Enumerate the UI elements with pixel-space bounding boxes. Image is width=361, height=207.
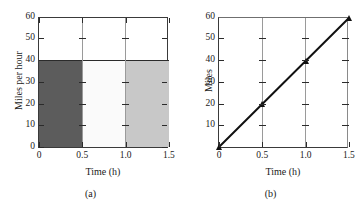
- figure-two-panel-chart: Miles per hour 0 10 20: [0, 0, 361, 207]
- ytick-40: [39, 60, 44, 61]
- panel-b: Miles 10 20: [180, 0, 361, 207]
- xtick-0.5-top: [82, 18, 83, 23]
- midtick-1.0-50: [122, 38, 129, 39]
- xtick-label-1.5: 1.5: [163, 151, 175, 161]
- midtick-1.0-10: [122, 125, 129, 126]
- ytick-50-right: [162, 38, 167, 39]
- panel-b-x-axis-title: Time (h): [218, 166, 348, 177]
- ytick-label-10: 10: [26, 120, 36, 130]
- ytick-label-40: 40: [206, 55, 216, 65]
- ytick-20-right: [162, 104, 167, 105]
- ytick-50: [39, 38, 44, 39]
- midtick-0.5-50: [259, 38, 266, 39]
- panel-b-plot-area: 10 20 30 40 50 60: [218, 17, 348, 148]
- midtick-1.0-20: [302, 104, 309, 105]
- ytick-label-60: 60: [206, 12, 216, 22]
- ytick-30: [219, 82, 224, 83]
- xtick-label-1.5: 1.5: [343, 151, 355, 161]
- ytick-label-30: 30: [26, 77, 36, 87]
- panel-b-caption: (b): [180, 188, 361, 199]
- ytick-40: [219, 60, 224, 61]
- xtick-0: [39, 142, 40, 147]
- midtick-right-20: [342, 104, 349, 105]
- ytick-0-right: [162, 147, 167, 148]
- midtick-0.5-40: [259, 60, 266, 61]
- panel-a: Miles per hour 0 10 20: [0, 0, 181, 207]
- ytick-10: [219, 125, 224, 126]
- midtick-0.5-20: [79, 104, 86, 105]
- ytick-label-0: 0: [30, 142, 35, 152]
- ytick-label-40: 40: [26, 55, 36, 65]
- ytick-label-50: 50: [26, 34, 36, 44]
- midtick-1.0-40: [302, 60, 309, 61]
- ytick-30-right: [162, 82, 167, 83]
- bar-segment-1: [39, 60, 82, 147]
- xtick-1.0-top: [126, 18, 127, 23]
- ytick-label-30: 30: [206, 77, 216, 87]
- midtick-1.0-30: [122, 82, 129, 83]
- ytick-40-right: [162, 60, 167, 61]
- midtick-right-30: [342, 82, 349, 83]
- ytick-label-60: 60: [26, 12, 36, 22]
- midtick-0.5-50: [79, 38, 86, 39]
- midtick-1.0-30: [302, 82, 309, 83]
- xtick-0.5: [262, 142, 263, 147]
- distance-line: [219, 18, 349, 147]
- xtick-label-1.0: 1.0: [300, 151, 312, 161]
- panel-a-y-axis-title: Miles per hour: [13, 21, 24, 141]
- xtick-0-top: [39, 18, 40, 23]
- midtick-1.0-20: [122, 104, 129, 105]
- xtick-label-1.0: 1.0: [120, 151, 132, 161]
- midtick-0.5-30: [79, 82, 86, 83]
- xtick-0: [219, 142, 220, 147]
- xtick-label-0: 0: [217, 151, 222, 161]
- midtick-right-40: [342, 60, 349, 61]
- xtick-1.0: [126, 142, 127, 147]
- midtick-right-10: [342, 125, 349, 126]
- midtick-0.5-10: [259, 125, 266, 126]
- ytick-10-right: [162, 125, 167, 126]
- ytick-label-20: 20: [26, 99, 36, 109]
- xtick-1.5: [349, 142, 350, 147]
- midtick-0.5-30: [259, 82, 266, 83]
- xtick-label-0: 0: [37, 151, 42, 161]
- xtick-0.5: [82, 142, 83, 147]
- ytick-50: [219, 38, 224, 39]
- xtick-label-0.5: 0.5: [76, 151, 88, 161]
- ytick-0: [39, 147, 44, 148]
- panel-a-caption: (a): [0, 188, 181, 199]
- xtick-1.5-top: [169, 18, 170, 23]
- panel-a-plot-area: 0 10 20 30 40 50 60: [38, 17, 168, 148]
- ytick-10: [39, 125, 44, 126]
- xtick-label-0.5: 0.5: [256, 151, 268, 161]
- midtick-0.5-20: [259, 104, 266, 105]
- xtick-1.5: [169, 142, 170, 147]
- panel-a-x-axis-title: Time (h): [38, 166, 168, 177]
- ytick-20: [219, 104, 224, 105]
- xtick-1.0: [306, 142, 307, 147]
- midtick-0.5-10: [79, 125, 86, 126]
- ytick-label-10: 10: [206, 120, 216, 130]
- midtick-1.0-50: [302, 38, 309, 39]
- data-marker-3: [346, 15, 352, 21]
- ytick-label-20: 20: [206, 99, 216, 109]
- ytick-label-50: 50: [206, 34, 216, 44]
- bar-segment-2: [82, 60, 125, 147]
- ytick-20: [39, 104, 44, 105]
- ytick-30: [39, 82, 44, 83]
- midtick-1.0-10: [302, 125, 309, 126]
- midtick-right-50: [342, 38, 349, 39]
